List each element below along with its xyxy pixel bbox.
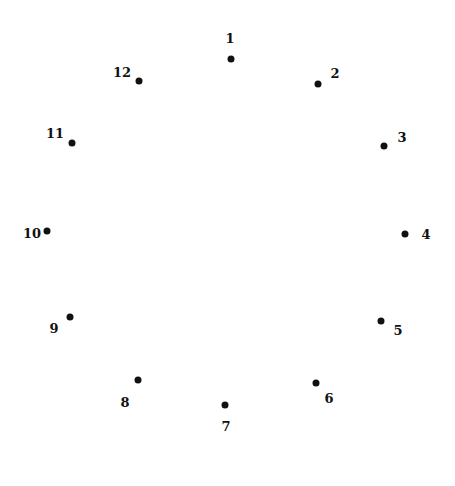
dot-label-3: 3	[397, 131, 406, 144]
dot-label-1: 1	[225, 32, 234, 45]
dot-point-10	[44, 228, 51, 235]
dot-label-10: 10	[23, 227, 41, 240]
dot-to-dot-canvas: 123456789101112	[0, 0, 455, 486]
dot-label-2: 2	[330, 67, 339, 80]
dot-label-4: 4	[421, 228, 430, 241]
dot-label-6: 6	[324, 392, 333, 405]
dot-point-1	[228, 56, 235, 63]
dot-point-11	[69, 140, 76, 147]
dot-label-8: 8	[120, 396, 129, 409]
dot-point-12	[136, 78, 143, 85]
dot-point-4	[402, 231, 409, 238]
dot-label-11: 11	[46, 127, 64, 140]
dot-point-9	[67, 314, 74, 321]
dot-label-5: 5	[393, 324, 402, 337]
dot-label-9: 9	[49, 322, 58, 335]
dot-point-6	[313, 380, 320, 387]
dot-point-2	[315, 81, 322, 88]
dot-point-3	[381, 143, 388, 150]
dot-point-7	[222, 402, 229, 409]
dot-label-12: 12	[113, 66, 131, 79]
dot-point-8	[135, 377, 142, 384]
dot-label-7: 7	[221, 420, 230, 433]
dot-point-5	[378, 318, 385, 325]
